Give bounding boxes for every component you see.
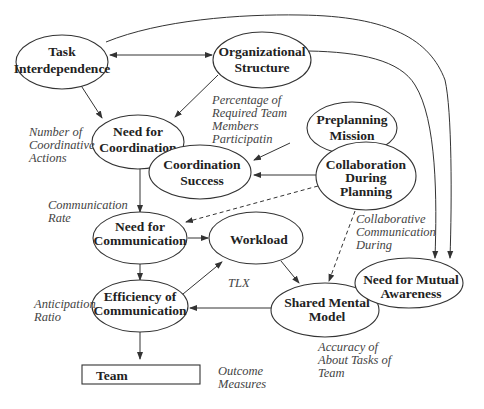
node-label: Need for: [115, 219, 165, 234]
node-need-for-communication: Need for Communication: [93, 212, 187, 264]
node-label: Shared Mental: [284, 295, 370, 310]
measure-collaborative-communication-during: Collaborative Communication During: [355, 212, 436, 252]
node-label: Efficiency of: [104, 289, 177, 304]
measure-number-of-coordinative-actions: Number of Coordinative Actions: [28, 125, 95, 165]
measure-label: Communication: [48, 198, 128, 212]
measure-accuracy-about-tasks: Accuracy of About Tasks of Team: [317, 340, 393, 380]
node-label: Need for: [113, 124, 163, 139]
measure-label: Measures: [217, 377, 266, 391]
node-label: Planning: [340, 184, 392, 199]
node-need-for-mutual-awareness: Need for Mutual Awareness: [355, 258, 463, 308]
node-organizational-structure: Organizational Structure: [213, 32, 311, 88]
node-label: Workload: [230, 232, 288, 247]
diagram-canvas: Task Interdependence Organizational Stru…: [0, 0, 484, 409]
measure-label: Anticipation: [33, 297, 96, 311]
measure-label: Actions: [28, 151, 67, 165]
measure-label: Coordinative: [29, 138, 95, 152]
measure-outcome-measures: Outcome Measures: [217, 364, 266, 391]
node-label: Team: [96, 368, 129, 383]
node-workload: Workload: [209, 212, 303, 264]
measure-percentage-required-team-members: Percentage of Required Team Members Part…: [211, 93, 287, 146]
node-task-interdependence: Task Interdependence: [14, 35, 111, 89]
edge-task-to-coordination: [80, 84, 102, 118]
edge-efficiency-to-workload: [183, 262, 222, 294]
edge-workload-to-shared-model: [281, 261, 299, 283]
measure-label: Communication: [356, 225, 436, 239]
node-coordination-success: Coordination Success: [149, 145, 251, 199]
node-label: Success: [180, 173, 224, 188]
node-efficiency-of-communication: Efficiency of Communication: [92, 280, 188, 332]
node-label: Coordination: [163, 157, 241, 172]
measure-label: Required Team: [211, 106, 287, 120]
node-team: Team: [82, 365, 200, 384]
node-label: Communication: [93, 303, 186, 318]
measure-label: About Tasks of: [317, 353, 393, 367]
measure-label: Members: [211, 119, 259, 133]
node-label: Model: [309, 309, 346, 324]
measure-label: Percentage of: [211, 93, 283, 107]
measure-label: TLX: [228, 276, 251, 290]
edge-collaboration-to-shared-model: [329, 211, 355, 281]
measure-label: During: [355, 238, 392, 252]
measure-label: Outcome: [218, 364, 264, 378]
measure-label: Participatin: [211, 132, 272, 146]
node-label: Interdependence: [14, 61, 111, 76]
measure-label: Collaborative: [356, 212, 426, 226]
node-label: Communication: [93, 233, 186, 248]
node-label: Need for Mutual: [363, 272, 459, 287]
node-label: Preplanning: [316, 112, 387, 127]
measure-tlx: TLX: [228, 276, 251, 290]
node-label: Organizational: [219, 44, 306, 59]
measure-anticipation-ratio: Anticipation Ratio: [33, 297, 96, 324]
node-label: Task: [48, 44, 76, 59]
measure-label: Rate: [47, 211, 71, 225]
node-label: Mission: [329, 128, 375, 143]
measure-label: Accuracy of: [317, 340, 380, 354]
node-label: During: [345, 170, 387, 185]
measure-label: Number of: [28, 125, 84, 139]
node-collaboration-during-planning: Collaboration During Planning: [316, 142, 416, 210]
node-label: Structure: [234, 60, 289, 75]
measure-label: Team: [318, 366, 345, 380]
measure-label: Ratio: [33, 310, 61, 324]
node-label: Awareness: [381, 286, 442, 301]
